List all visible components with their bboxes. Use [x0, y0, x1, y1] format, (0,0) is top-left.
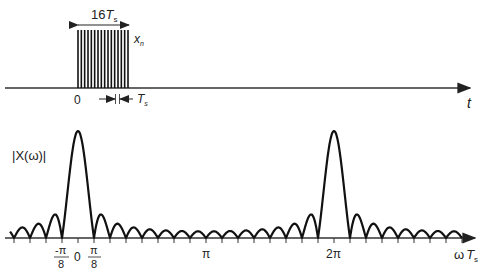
svg-text:π: π [90, 244, 98, 256]
svg-text:-π: -π [55, 244, 67, 256]
width-label: 16Ts [91, 7, 117, 24]
tick-label-zero: 0 [74, 250, 81, 264]
frequency-axis-label: ωTs [454, 247, 478, 264]
spectrum-curve [10, 131, 462, 238]
origin-label: 0 [74, 93, 81, 107]
svg-text:8: 8 [58, 258, 64, 270]
axis-ticks [14, 238, 462, 243]
magnitude-label: |X(ω)| [12, 148, 46, 163]
tick-label-neg-pi-8: -π 8 [54, 244, 69, 270]
svg-text:8: 8 [91, 258, 97, 270]
tick-label-2pi: 2π [326, 247, 341, 261]
figure: 16Ts xn 0 Ts t |X(ω)| -π 8 0 π 8 π 2π ωT… [0, 0, 485, 279]
tick-label-pi-8: π 8 [88, 244, 101, 270]
time-axis-label: t [467, 95, 472, 111]
tick-label-pi: π [202, 247, 210, 261]
signal-label: xn [133, 32, 144, 47]
pulse-train [78, 30, 128, 88]
spacing-label: Ts [137, 92, 148, 107]
